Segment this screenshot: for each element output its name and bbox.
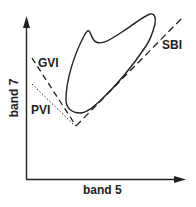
data-cloud-outline bbox=[66, 14, 155, 113]
x-axis-label: band 5 bbox=[83, 184, 122, 196]
gvi-label: GVI bbox=[38, 57, 59, 69]
sbi-label: SBI bbox=[162, 39, 182, 51]
pvi-label: PVI bbox=[31, 104, 50, 116]
x-axis-arrow-icon bbox=[174, 176, 186, 183]
sbi-line bbox=[76, 18, 182, 126]
y-axis-arrow-icon bbox=[23, 16, 30, 28]
y-axis-label: band 7 bbox=[8, 79, 20, 118]
vegetation-index-diagram: GVI PVI SBI band 5 band 7 bbox=[0, 0, 196, 207]
diagram-graphic bbox=[0, 0, 196, 207]
